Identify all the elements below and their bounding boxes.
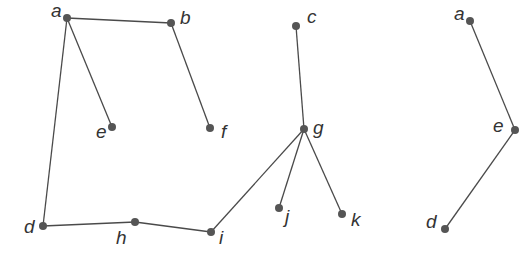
node-a (63, 14, 71, 22)
node-label-c: c (307, 6, 317, 27)
node-label-d2: d (426, 211, 438, 232)
node-label-g: g (313, 117, 324, 138)
node-d (39, 222, 47, 230)
node-label-b: b (180, 7, 191, 28)
node-f (206, 124, 214, 132)
node-label-h: h (116, 227, 127, 248)
node-e (108, 123, 116, 131)
edge-a-b (67, 18, 171, 23)
edge-a-e (67, 18, 112, 127)
edge-a-d (43, 18, 67, 226)
graph-diagram: abefdhicgjkaed (0, 0, 519, 262)
node-label-i: i (219, 227, 224, 248)
node-e2 (511, 126, 519, 134)
node-c (292, 22, 300, 30)
node-label-e2: e (493, 115, 504, 136)
node-label-k: k (351, 209, 362, 230)
node-j (275, 204, 283, 212)
node-d2 (441, 225, 449, 233)
node-label-d: d (24, 216, 36, 237)
edge-e-d (445, 130, 515, 229)
edge-c-g (296, 26, 304, 129)
node-label-e: e (96, 121, 107, 142)
edge-g-k (304, 129, 342, 214)
node-b (167, 19, 175, 27)
node-h (131, 218, 139, 226)
node-i (207, 228, 215, 236)
node-label-j: j (282, 206, 290, 227)
edge-d-h (43, 222, 135, 226)
node-g (300, 125, 308, 133)
labels-layer: abefdhicgjkaed (24, 0, 504, 248)
node-label-a2: a (454, 3, 465, 24)
node-label-a: a (51, 0, 62, 21)
node-k (338, 210, 346, 218)
node-a2 (466, 17, 474, 25)
edge-b-f (171, 23, 210, 128)
edge-g-j (279, 129, 304, 208)
edge-i-g (211, 129, 304, 232)
edge-a-e (470, 21, 515, 130)
nodes-layer (39, 14, 519, 236)
node-label-f: f (221, 121, 228, 142)
edge-h-i (135, 222, 211, 232)
